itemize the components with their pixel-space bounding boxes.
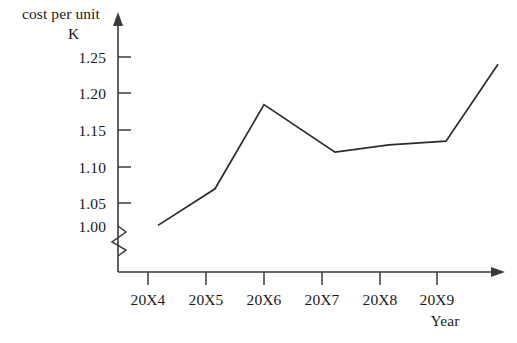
x-axis-title: Year [415,313,475,329]
x-axis-arrow-icon [491,267,505,277]
y-axis-label-1-20: 1.20 [56,86,106,102]
x-axis-label-20x8: 20X8 [350,292,410,308]
x-axis-label-20x6: 20X6 [234,292,294,308]
y-axis-label-1-05: 1.05 [56,196,106,212]
x-axis-label-20x5: 20X5 [176,292,236,308]
y-axis-label-1-00: 1.00 [56,219,106,235]
line-chart: cost per unit K 1.25 1.20 1.15 1.10 1.05… [0,0,517,343]
y-axis-arrow-icon [113,12,123,26]
x-axis-label-20x4: 20X4 [118,292,178,308]
y-axis-break-icon [112,226,126,256]
y-axis-title-unit: K [68,26,79,42]
y-axis-label-1-15: 1.15 [56,123,106,139]
y-axis-title-line1: cost per unit [22,6,100,22]
x-axis-label-20x7: 20X7 [292,292,352,308]
x-axis-label-20x9: 20X9 [407,292,467,308]
y-axis-label-1-25: 1.25 [56,50,106,66]
data-series-line [158,64,498,225]
y-axis-label-1-10: 1.10 [56,160,106,176]
